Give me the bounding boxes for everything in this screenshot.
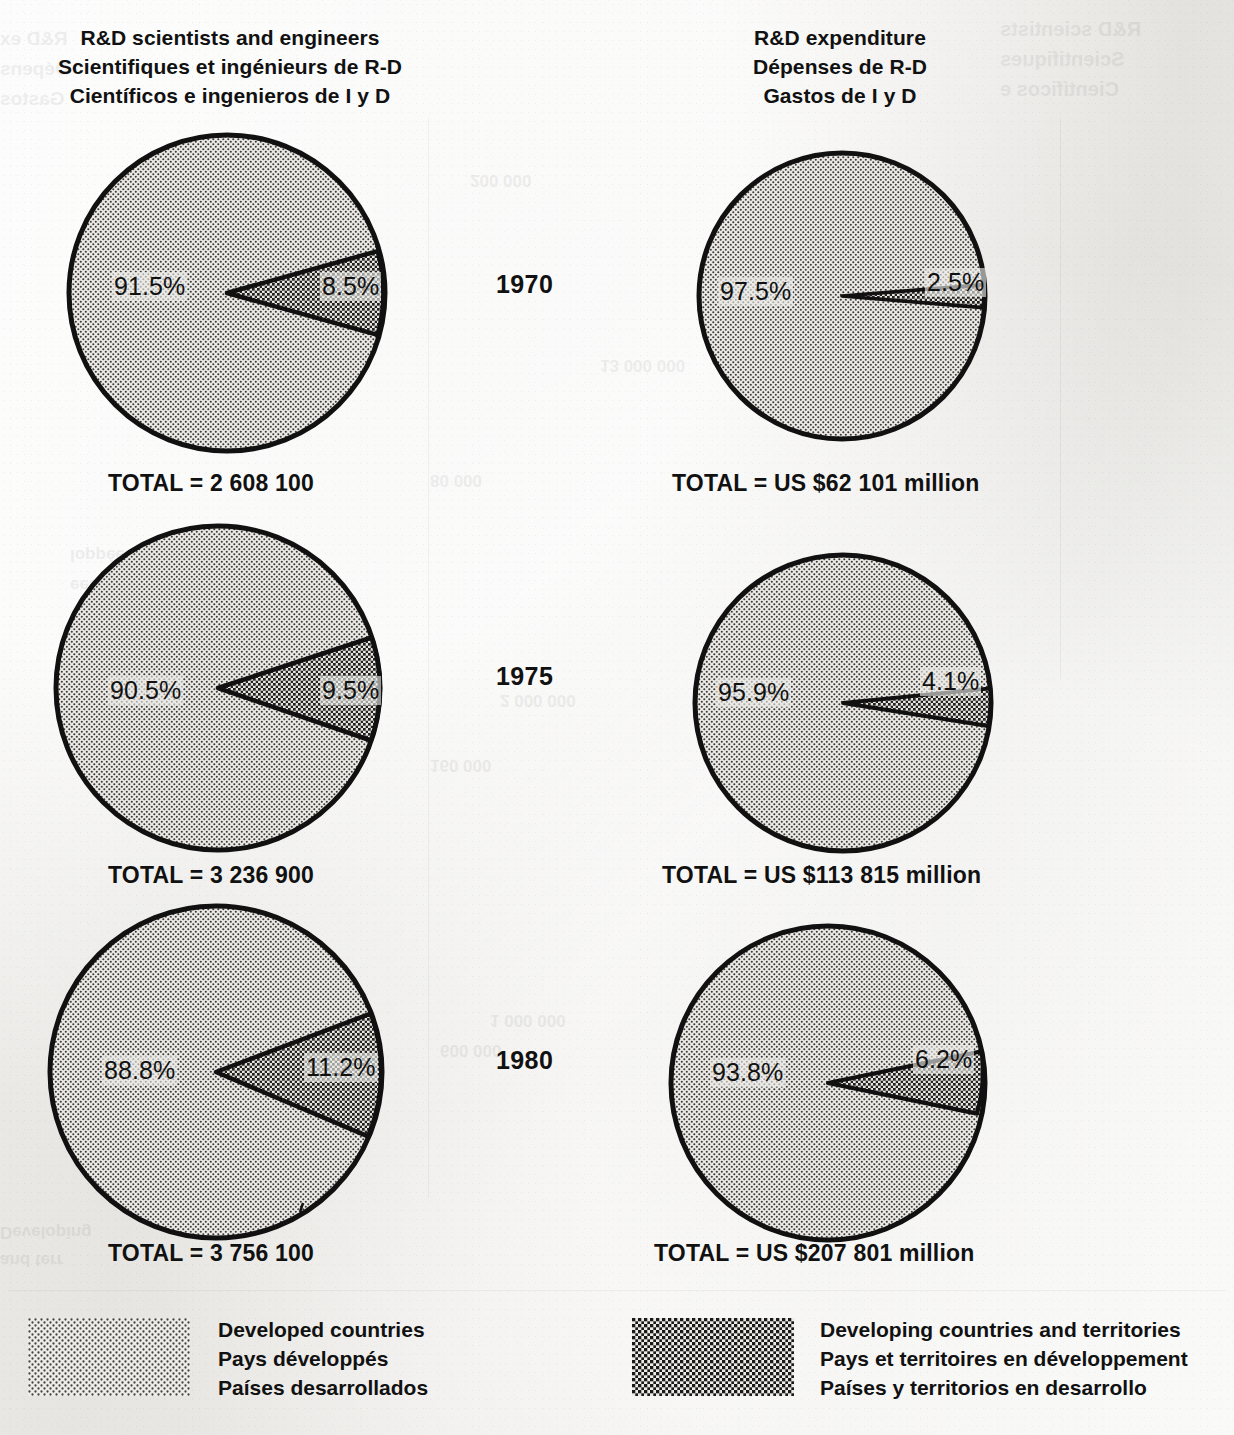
heading-line-es: Gastos de I y D (640, 82, 1040, 111)
chart-sheet: R&D scientists and engineers Scientifiqu… (0, 0, 1234, 1435)
pie-label-developed: 88.8% (102, 1056, 177, 1085)
heading-line-en: R&D scientists and engineers (20, 24, 440, 53)
legend-line-es: Países y territorios en desarrollo (820, 1374, 1188, 1403)
light-dotted-swatch (28, 1318, 190, 1396)
legend-developing-text: Developing countries and territories Pay… (820, 1316, 1188, 1402)
legend-line-es: Países desarrollados (218, 1374, 428, 1403)
heading-line-en: R&D expenditure (640, 24, 1040, 53)
total-label-scientists-1980: TOTAL = 3 756 100 (108, 1240, 314, 1267)
pie-label-developed: 97.5% (718, 277, 793, 306)
legend-line-fr: Pays développés (218, 1345, 428, 1374)
total-label-expenditure-1975: TOTAL = US $113 815 million (662, 862, 981, 889)
pie-label-developed: 95.9% (716, 678, 791, 707)
heading-line-es: Científicos e ingenieros de I y D (20, 82, 440, 111)
total-label-scientists-1970: TOTAL = 2 608 100 (108, 470, 314, 497)
legend-developed-text: Developed countries Pays développés País… (218, 1316, 428, 1402)
total-label-expenditure-1970: TOTAL = US $62 101 million (672, 470, 980, 497)
total-label-expenditure-1980: TOTAL = US $207 801 million (654, 1240, 975, 1267)
heading-line-fr: Scientifiques et ingénieurs de R-D (20, 53, 440, 82)
pie-label-developing: 9.5% (320, 676, 381, 705)
pie-label-developing: 4.1% (920, 667, 981, 696)
pie-label-developing: 6.2% (913, 1045, 974, 1074)
column-heading-expenditure: R&D expenditure Dépenses de R-D Gastos d… (640, 24, 1040, 110)
legend-line-en: Developed countries (218, 1316, 428, 1345)
legend-line-en: Developing countries and territories (820, 1316, 1188, 1345)
year-label-1970: 1970 (496, 270, 553, 299)
heading-line-fr: Dépenses de R-D (640, 53, 1040, 82)
pie-label-developing: 11.2% (304, 1053, 378, 1082)
pie-label-developed: 93.8% (710, 1058, 785, 1087)
year-label-1980: 1980 (496, 1046, 553, 1075)
pie-label-developing: 2.5% (925, 268, 986, 297)
total-label-scientists-1975: TOTAL = 3 236 900 (108, 862, 314, 889)
year-label-1975: 1975 (496, 662, 553, 691)
pie-label-developing: 8.5% (320, 272, 381, 301)
pie-label-developed: 90.5% (108, 676, 183, 705)
legend-line-fr: Pays et territoires en développement (820, 1345, 1188, 1374)
pie-label-developed: 91.5% (112, 272, 187, 301)
column-heading-scientists: R&D scientists and engineers Scientifiqu… (20, 24, 440, 110)
dark-checker-swatch (632, 1318, 794, 1396)
